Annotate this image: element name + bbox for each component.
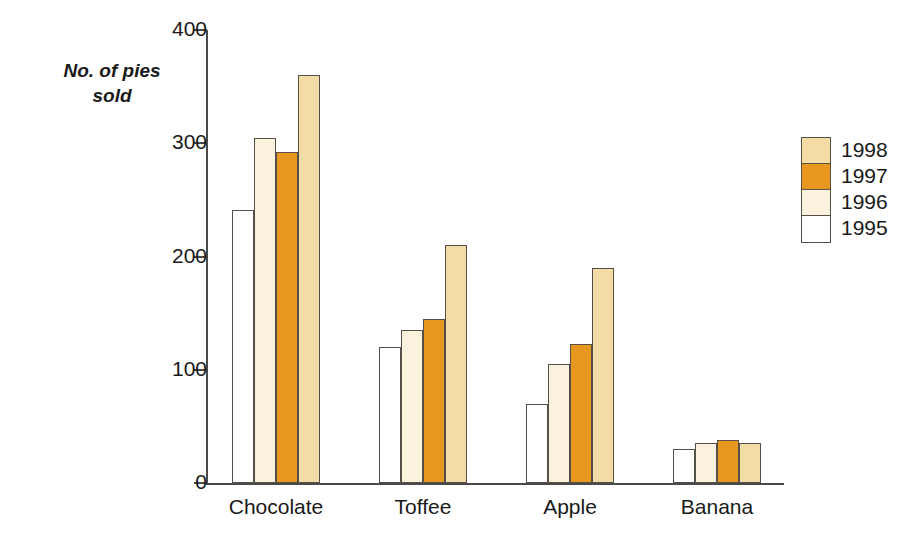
y-tick-label: 0 — [149, 470, 207, 494]
bar — [423, 319, 445, 483]
legend-label: 1996 — [841, 189, 888, 215]
bar-group — [526, 30, 614, 483]
bar — [379, 347, 401, 483]
legend-swatch-stack — [801, 137, 831, 243]
x-axis-category-label: Banana — [628, 495, 806, 519]
x-axis-line — [206, 483, 784, 485]
chart-page: No. of pies sold 0100200300400 Chocolate… — [0, 0, 924, 552]
bar — [717, 440, 739, 483]
y-tick-label: 400 — [149, 17, 207, 41]
legend-swatch — [802, 138, 830, 164]
y-tick-label: 300 — [149, 130, 207, 154]
bar — [232, 210, 254, 483]
bar-group — [673, 30, 761, 483]
bar — [445, 245, 467, 483]
bar — [298, 75, 320, 483]
bar-group — [232, 30, 320, 483]
bar-group — [379, 30, 467, 483]
legend-label-stack: 1998199719961995 — [841, 137, 888, 241]
legend-label: 1997 — [841, 163, 888, 189]
y-tick-label: 200 — [149, 244, 207, 268]
plot-area: 0100200300400 ChocolateToffeeAppleBanana — [0, 0, 924, 552]
legend-swatch — [802, 190, 830, 216]
bar — [592, 268, 614, 483]
y-tick-label: 100 — [149, 357, 207, 381]
bar — [526, 404, 548, 483]
bar — [695, 443, 717, 483]
bar — [570, 344, 592, 483]
legend-label: 1998 — [841, 137, 888, 163]
bar — [254, 138, 276, 483]
legend-label: 1995 — [841, 215, 888, 241]
bar — [739, 443, 761, 483]
legend-swatch — [802, 216, 830, 242]
legend-swatch — [802, 164, 830, 190]
bar — [401, 330, 423, 483]
bar — [548, 364, 570, 483]
bar — [276, 152, 298, 483]
bar — [673, 449, 695, 483]
